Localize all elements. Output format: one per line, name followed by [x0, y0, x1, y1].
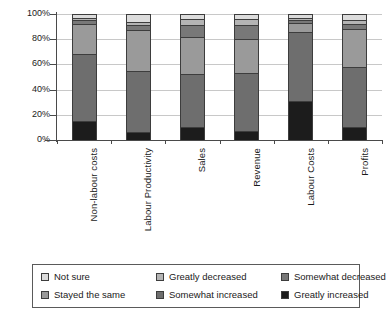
x-axis-label: Profits [360, 148, 370, 176]
bar-non-labour-costs[interactable] [72, 14, 97, 140]
bar-segment [289, 23, 312, 32]
legend-label: Somewhat increased [169, 290, 258, 300]
bar-segment [181, 74, 204, 127]
bar-sales[interactable] [180, 14, 205, 140]
bar-segment [73, 121, 96, 140]
stacked-bar-chart: 0%20%40%60%80%100% Non-labour costsLabou… [0, 0, 391, 316]
x-tick-mark [165, 140, 166, 144]
x-axis-label: Labour Productivity [143, 148, 153, 231]
bar-segment [127, 14, 150, 22]
bar-segment [289, 101, 312, 140]
bar-revenue[interactable] [234, 14, 259, 140]
gridline [57, 39, 382, 40]
legend-label: Somewhat decreased [294, 272, 386, 282]
y-tick-label: 20% [6, 110, 50, 119]
gridline [57, 14, 382, 15]
bar-segment [343, 127, 366, 140]
bar-segment [235, 25, 258, 39]
y-tick-label: 60% [6, 59, 50, 68]
legend-swatch [41, 291, 49, 299]
bar-segment [181, 25, 204, 36]
x-axis-line [45, 140, 383, 141]
legend-item[interactable]: Greatly decreased [156, 272, 281, 282]
x-axis-label: Sales [197, 148, 207, 172]
bar-labour-productivity[interactable] [126, 14, 151, 140]
legend-label: Not sure [54, 272, 90, 282]
x-axis-label: Labour Costs [306, 148, 316, 206]
legend-swatch [156, 291, 164, 299]
bar-labour-costs[interactable] [288, 14, 313, 140]
legend-swatch [41, 273, 49, 281]
x-tick-mark [382, 140, 383, 144]
legend: Not sureGreatly decreasedSomewhat decrea… [32, 264, 360, 308]
bar-profits[interactable] [342, 14, 367, 140]
bar-segment [73, 54, 96, 121]
x-tick-mark [274, 140, 275, 144]
y-tick-label: 80% [6, 34, 50, 43]
legend-item[interactable]: Not sure [41, 272, 156, 282]
y-tick-label: 40% [6, 85, 50, 94]
legend-swatch [281, 291, 289, 299]
y-tick-label: 0% [6, 135, 50, 144]
bar-segment [73, 24, 96, 54]
legend-item[interactable]: Greatly increased [281, 290, 386, 300]
gridline [57, 64, 382, 65]
legend-swatch [281, 273, 289, 281]
plot-area [57, 14, 382, 140]
x-tick-mark [220, 140, 221, 144]
x-tick-mark [57, 140, 58, 144]
bar-segment [343, 67, 366, 127]
legend-item[interactable]: Somewhat decreased [281, 272, 386, 282]
bar-segment [127, 30, 150, 70]
legend-item[interactable]: Stayed the same [41, 290, 156, 300]
bar-segment [343, 29, 366, 67]
bar-segment [127, 71, 150, 133]
bar-segment [181, 37, 204, 75]
bar-segment [235, 73, 258, 131]
bar-segment [127, 132, 150, 140]
legend-label: Greatly decreased [169, 272, 247, 282]
gridline [57, 115, 382, 116]
bar-segment [289, 32, 312, 101]
y-tick-label: 100% [6, 9, 50, 18]
legend-label: Stayed the same [54, 290, 125, 300]
legend-swatch [156, 273, 164, 281]
legend-item[interactable]: Somewhat increased [156, 290, 281, 300]
x-axis-label: Non-labour costs [89, 148, 99, 221]
legend-label: Greatly increased [294, 290, 368, 300]
bar-segment [235, 39, 258, 73]
bar-segment [181, 127, 204, 140]
x-tick-mark [111, 140, 112, 144]
x-axis-label: Revenue [252, 148, 262, 187]
bar-segment [235, 131, 258, 140]
gridline [57, 90, 382, 91]
x-tick-mark [328, 140, 329, 144]
